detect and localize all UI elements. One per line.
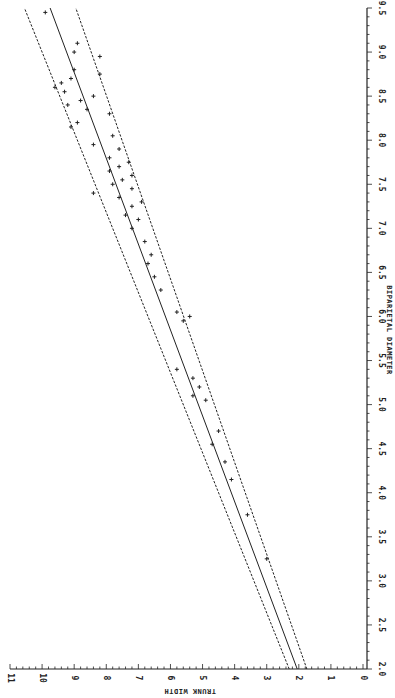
data-point <box>217 429 221 433</box>
data-point <box>98 54 102 58</box>
y-tick-label: 10 <box>38 673 47 683</box>
x-tick-label: 7.5 <box>377 177 386 192</box>
x-tick-label: 2.5 <box>377 618 386 633</box>
data-point <box>75 121 79 125</box>
y-tick-label: 11 <box>6 673 15 683</box>
data-point <box>98 72 102 76</box>
data-point <box>120 178 124 182</box>
data-point <box>107 112 111 116</box>
lower-limit-line <box>76 8 307 669</box>
y-tick-label: 0 <box>359 676 368 681</box>
data-point <box>191 376 195 380</box>
data-point <box>229 478 233 482</box>
x-tick-label: 4.5 <box>377 441 386 456</box>
data-point <box>143 240 147 244</box>
data-point <box>197 385 201 389</box>
upper-limit-line <box>24 8 289 669</box>
y-tick-label: 2 <box>294 676 303 681</box>
data-point <box>91 191 95 195</box>
x-tick-label: 9.0 <box>377 45 386 60</box>
data-point <box>59 81 63 85</box>
x-tick-label: 3.0 <box>377 574 386 589</box>
data-point <box>117 165 121 169</box>
y-tick-label: 4 <box>230 676 239 681</box>
y-axis-title: TRUNK WIDTH <box>164 687 216 695</box>
data-point <box>204 398 208 402</box>
x-tick-label: 7.0 <box>377 221 386 236</box>
y-tick-label: 7 <box>134 676 143 681</box>
y-tick-label: 9 <box>70 676 79 681</box>
data-point <box>91 143 95 147</box>
y-tick-label: 3 <box>262 676 271 681</box>
data-point <box>175 367 179 371</box>
data-point <box>175 310 179 314</box>
x-axis-title: BIPARIETAL DIAMETER <box>385 285 393 375</box>
data-point <box>107 156 111 160</box>
x-tick-label: 8.5 <box>377 89 386 104</box>
x-tick-label: 2.0 <box>377 662 386 677</box>
x-tick-label: 8.0 <box>377 133 386 148</box>
y-tick-label: 8 <box>102 676 111 681</box>
data-points <box>43 10 268 560</box>
x-tick-label: 5.5 <box>377 353 386 368</box>
data-point <box>188 314 192 318</box>
data-point <box>117 147 121 151</box>
data-point <box>149 253 153 257</box>
regression-lines <box>24 8 306 669</box>
y-tick-label: 1 <box>326 676 335 681</box>
data-point <box>127 160 131 164</box>
data-point <box>159 288 163 292</box>
x-tick-label: 6.0 <box>377 309 386 324</box>
data-point <box>130 204 134 208</box>
data-point <box>152 275 156 279</box>
data-point <box>130 187 134 191</box>
data-point <box>79 99 83 103</box>
data-point <box>72 50 76 54</box>
data-point <box>111 182 115 186</box>
x-tick-label: 6.5 <box>377 265 386 280</box>
data-point <box>223 460 227 464</box>
data-point <box>66 103 70 107</box>
x-tick-label: 3.5 <box>377 530 386 545</box>
y-tick-label: 5 <box>198 676 207 681</box>
regression-line <box>50 8 297 669</box>
x-tick-label: 5.0 <box>377 397 386 412</box>
scatter-chart: 012345678910112.02.53.03.54.04.55.05.56.… <box>0 0 395 698</box>
data-point <box>111 134 115 138</box>
y-tick-label: 6 <box>166 676 175 681</box>
x-tick-label: 4.0 <box>377 486 386 501</box>
x-tick-label: 9.5 <box>377 1 386 16</box>
data-point <box>63 90 67 94</box>
data-point <box>245 513 249 517</box>
data-point <box>43 10 47 14</box>
data-point <box>75 41 79 45</box>
data-point <box>91 94 95 98</box>
data-point <box>69 77 73 81</box>
data-point <box>136 218 140 222</box>
